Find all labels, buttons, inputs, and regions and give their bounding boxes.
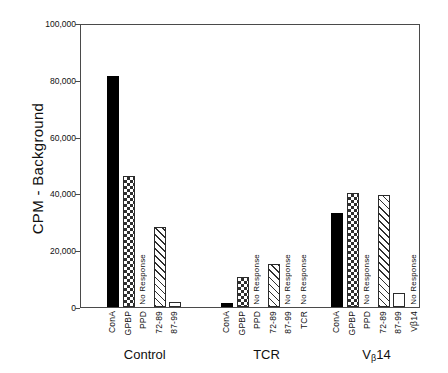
x-tick-label: ConA bbox=[222, 311, 231, 333]
bar bbox=[268, 264, 280, 307]
bar bbox=[221, 303, 233, 307]
x-tick-label: PPD bbox=[139, 311, 148, 329]
bar bbox=[378, 195, 390, 307]
bar bbox=[123, 176, 135, 307]
x-tick-label: PPD bbox=[253, 311, 262, 329]
y-tick-label: 20,000 bbox=[16, 246, 76, 256]
y-tick-label: 80,000 bbox=[16, 76, 76, 86]
y-tick-label: 60,000 bbox=[16, 133, 76, 143]
x-tick-label: GPBP bbox=[348, 311, 357, 335]
x-tick-label: TCR bbox=[300, 311, 309, 329]
no-response-annotation: No Response bbox=[284, 254, 292, 305]
x-tick-label: Vβ14 bbox=[410, 311, 419, 332]
bar bbox=[169, 302, 181, 307]
bar bbox=[154, 227, 166, 307]
plot-area: No ResponseNo ResponseNo ResponseNo Resp… bbox=[80, 24, 420, 308]
bar bbox=[347, 193, 359, 307]
x-tick-label: ConA bbox=[332, 311, 341, 333]
y-tick-label: 40,000 bbox=[16, 189, 76, 199]
y-tick-mark bbox=[75, 308, 80, 309]
group-caption: TCR bbox=[253, 347, 280, 362]
x-tick-label: GPBP bbox=[238, 311, 247, 335]
x-tick-label: 72-89 bbox=[269, 311, 278, 334]
bar bbox=[393, 293, 405, 307]
no-response-annotation: No Response bbox=[363, 254, 371, 305]
x-tick-label: PPD bbox=[363, 311, 372, 329]
group-caption: Control bbox=[124, 347, 166, 362]
bar bbox=[107, 76, 119, 307]
bar bbox=[237, 277, 249, 307]
x-tick-label: 72-89 bbox=[379, 311, 388, 334]
x-tick-label: 87-99 bbox=[394, 311, 403, 334]
bar-chart-figure: CPM - Background 020,00040,00060,00080,0… bbox=[0, 0, 448, 373]
no-response-annotation: No Response bbox=[139, 254, 147, 305]
x-tick-label: GPBP bbox=[124, 311, 133, 335]
bar bbox=[331, 213, 343, 307]
y-tick-label: 100,000 bbox=[16, 19, 76, 29]
no-response-annotation: No Response bbox=[253, 254, 261, 305]
no-response-annotation: No Response bbox=[300, 254, 308, 305]
group-caption: Vβ14 bbox=[362, 347, 390, 363]
y-tick-label: 0 bbox=[16, 303, 76, 313]
x-tick-label: 87-99 bbox=[284, 311, 293, 334]
x-tick-label: ConA bbox=[108, 311, 117, 333]
x-tick-label: 87-99 bbox=[170, 311, 179, 334]
no-response-annotation: No Response bbox=[410, 254, 418, 305]
x-tick-label: 72-89 bbox=[155, 311, 164, 334]
